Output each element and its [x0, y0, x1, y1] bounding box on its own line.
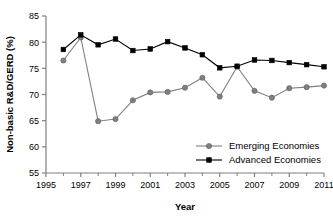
data-point-marker: [200, 52, 205, 57]
data-point-marker: [148, 47, 153, 52]
data-point-marker: [165, 89, 170, 94]
data-point-marker: [183, 46, 188, 51]
x-axis-tick-label: 1999: [105, 180, 125, 190]
y-axis-title: Non-basic R&D/GERD (%): [4, 36, 15, 153]
data-point-marker: [61, 47, 66, 52]
series-line-1: [63, 37, 324, 121]
data-point-marker: [304, 62, 309, 67]
legend-label: Emerging Economies: [229, 140, 320, 151]
data-point-marker: [287, 60, 292, 65]
series-line-2: [63, 35, 324, 68]
data-point-marker: [200, 75, 205, 80]
data-point-marker: [113, 37, 118, 42]
x-axis-tick-label: 2005: [210, 180, 230, 190]
y-axis-tick-label: 55: [29, 168, 39, 178]
data-point-marker: [182, 85, 187, 90]
data-point-marker: [148, 90, 153, 95]
data-point-marker: [322, 64, 327, 69]
legend-marker: [207, 158, 212, 163]
x-axis-tick-label: 2001: [140, 180, 160, 190]
data-point-marker: [217, 66, 222, 71]
data-point-marker: [130, 98, 135, 103]
data-point-marker: [96, 42, 101, 47]
data-point-marker: [321, 83, 326, 88]
data-point-marker: [287, 86, 292, 91]
data-point-marker: [270, 58, 275, 63]
data-point-marker: [304, 85, 309, 90]
x-axis-tick-label: 2003: [175, 180, 195, 190]
y-axis-tick-label: 85: [29, 11, 39, 21]
data-point-marker: [78, 33, 83, 38]
data-point-marker: [252, 58, 257, 63]
chart-figure: 5560657075808519951997199920012003200520…: [0, 0, 333, 222]
x-axis-tick-label: 1995: [36, 180, 56, 190]
legend-label: Advanced Economies: [229, 154, 321, 165]
y-axis-tick-label: 75: [29, 64, 39, 74]
line-chart: 5560657075808519951997199920012003200520…: [0, 0, 333, 222]
y-axis-tick-label: 60: [29, 142, 39, 152]
data-point-marker: [96, 119, 101, 124]
data-point-marker: [61, 58, 66, 63]
x-axis-tick-label: 1997: [71, 180, 91, 190]
data-point-marker: [113, 116, 118, 121]
data-point-marker: [235, 64, 240, 69]
data-point-marker: [165, 39, 170, 44]
legend-item-2: Advanced Economies: [196, 154, 321, 165]
data-point-marker: [252, 88, 257, 93]
y-axis-tick-label: 70: [29, 90, 39, 100]
legend-marker: [206, 143, 211, 148]
x-axis-tick-label: 2007: [244, 180, 264, 190]
x-axis-title: Year: [175, 201, 195, 212]
data-point-marker: [269, 95, 274, 100]
x-axis-tick-label: 2011: [314, 180, 333, 190]
legend-item-1: Emerging Economies: [196, 140, 320, 151]
y-axis-tick-label: 80: [29, 38, 39, 48]
y-axis-tick-label: 65: [29, 116, 39, 126]
data-point-marker: [217, 94, 222, 99]
data-point-marker: [131, 48, 136, 53]
x-axis-tick-label: 2009: [279, 180, 299, 190]
